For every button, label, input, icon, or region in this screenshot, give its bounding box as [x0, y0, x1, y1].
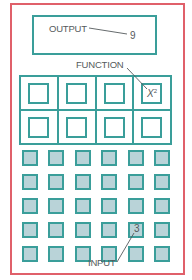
input-key[interactable] [128, 150, 144, 166]
input-key-value: 3 [134, 224, 140, 234]
function-key[interactable] [104, 117, 125, 138]
function-key[interactable] [66, 83, 87, 104]
output-value: 9 [130, 31, 136, 41]
input-key[interactable] [75, 222, 91, 238]
function-key[interactable] [28, 117, 49, 138]
function-key[interactable] [104, 83, 125, 104]
input-key[interactable] [48, 150, 64, 166]
function-key[interactable] [28, 83, 49, 104]
function-key-text: X [147, 88, 154, 99]
input-key[interactable] [154, 174, 170, 190]
input-key[interactable] [128, 198, 144, 214]
input-key[interactable] [75, 174, 91, 190]
input-key[interactable] [154, 222, 170, 238]
input-key[interactable] [154, 246, 170, 262]
input-key[interactable] [22, 198, 38, 214]
input-key[interactable] [128, 246, 144, 262]
output-label: OUTPUT [49, 24, 87, 34]
function-key-superscript: 2 [154, 88, 157, 94]
input-key[interactable] [22, 150, 38, 166]
function-key-square[interactable]: X2 [141, 83, 162, 104]
input-key[interactable] [154, 198, 170, 214]
function-key[interactable] [66, 117, 87, 138]
function-key[interactable] [141, 117, 162, 138]
input-key[interactable] [101, 174, 117, 190]
input-key[interactable] [101, 198, 117, 214]
input-key[interactable] [48, 246, 64, 262]
output-display [32, 15, 157, 55]
input-key[interactable] [128, 174, 144, 190]
input-key[interactable] [48, 222, 64, 238]
input-key[interactable] [75, 198, 91, 214]
input-key[interactable] [101, 150, 117, 166]
input-key[interactable] [48, 174, 64, 190]
input-key[interactable] [48, 198, 64, 214]
input-label: INPUT [88, 258, 116, 268]
input-key[interactable] [75, 150, 91, 166]
input-key[interactable] [101, 222, 117, 238]
input-key[interactable] [22, 222, 38, 238]
function-label: FUNCTION [76, 60, 123, 70]
input-key[interactable] [22, 174, 38, 190]
grid-divider [21, 109, 170, 111]
input-key-3[interactable]: 3 [128, 222, 144, 238]
input-key[interactable] [22, 246, 38, 262]
input-key[interactable] [154, 150, 170, 166]
